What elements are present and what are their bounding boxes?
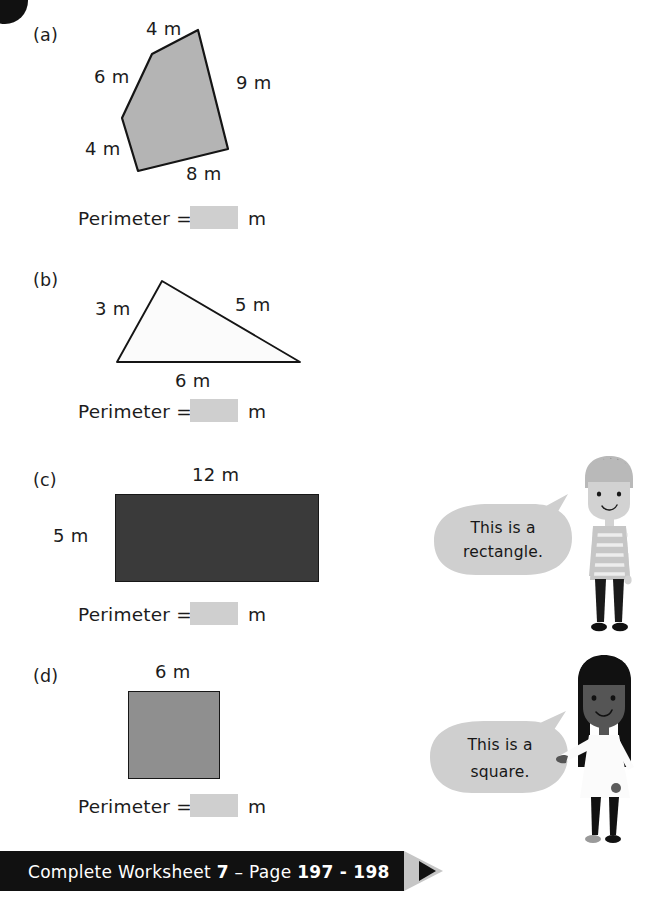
dimension-a-lower-left: 4 m — [85, 140, 121, 158]
boy-character-illustration — [573, 456, 645, 636]
triangle-shape-b — [108, 272, 308, 372]
speech-bubble-square-line2: square. — [424, 760, 576, 784]
item-label-d: (d) — [33, 668, 58, 686]
dimension-a-bottom: 8 m — [186, 165, 222, 183]
perimeter-prompt-a: Perimeter = — [78, 210, 192, 229]
perimeter-prompt-c: Perimeter = — [78, 606, 192, 625]
footer-separator: – Page — [229, 862, 297, 882]
dimension-c-top: 12 m — [192, 466, 239, 484]
item-label-b: (b) — [33, 272, 58, 290]
footer-pages: 197 - 198 — [297, 862, 390, 882]
item-label-a: (a) — [33, 27, 58, 45]
dimension-d-top: 6 m — [155, 663, 191, 681]
dimension-c-left: 5 m — [53, 527, 89, 545]
answer-box-a[interactable] — [190, 206, 238, 229]
answer-box-c[interactable] — [190, 602, 238, 625]
square-shape-d — [128, 691, 220, 779]
dimension-b-bottom: 6 m — [175, 372, 211, 390]
answer-box-b[interactable] — [190, 399, 238, 422]
dimension-a-upper-left: 6 m — [94, 68, 130, 86]
dimension-b-left: 3 m — [95, 300, 131, 318]
perimeter-prompt-b: Perimeter = — [78, 403, 192, 422]
answer-unit-d: m — [248, 798, 266, 817]
answer-box-d[interactable] — [190, 794, 238, 817]
speech-bubble-rectangle-line2: rectangle. — [428, 540, 578, 564]
answer-unit-a: m — [248, 210, 266, 229]
footer-banner-arrow-inner-icon — [419, 861, 436, 881]
dimension-a-right: 9 m — [236, 74, 272, 92]
dimension-a-top: 4 m — [146, 20, 182, 38]
answer-unit-b: m — [248, 403, 266, 422]
footer-worksheet-number: 7 — [217, 862, 229, 882]
worksheet-page: (a) 4 m 6 m 9 m 4 m 8 m Perimeter = m (b… — [0, 0, 651, 901]
perimeter-prompt-d: Perimeter = — [78, 798, 192, 817]
girl-character-illustration — [556, 655, 651, 845]
footer-banner-text: Complete Worksheet 7 – Page 197 - 198 — [28, 862, 390, 882]
rectangle-shape-c — [115, 494, 319, 582]
item-label-c: (c) — [33, 472, 57, 490]
footer-prefix: Complete Worksheet — [28, 862, 217, 882]
dimension-b-right: 5 m — [235, 296, 271, 314]
answer-unit-c: m — [248, 606, 266, 625]
speech-bubble-square-line1: This is a — [424, 733, 576, 757]
question-number-badge — [0, 0, 28, 24]
pentagon-shape-a — [110, 18, 240, 183]
speech-bubble-rectangle-line1: This is a — [428, 516, 578, 540]
